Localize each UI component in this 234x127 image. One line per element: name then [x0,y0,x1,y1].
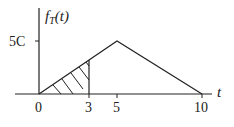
pdf-curve [39,41,202,94]
y-axis-label: fT(t) [45,8,69,26]
x-tick-label-5: 5 [113,100,120,115]
x-tick-label-3: 3 [85,100,92,115]
x-tick-label-10: 10 [194,100,208,115]
x-tick-label-0: 0 [35,100,42,115]
x-axis-label: t [217,84,222,100]
pdf-diagram: fT(t) 5C t 0 3 5 10 [0,0,234,127]
y-tick-label: 5C [9,34,25,49]
hatch-lines [53,62,89,94]
